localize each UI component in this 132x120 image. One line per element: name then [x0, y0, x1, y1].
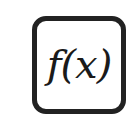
function-label: f(x): [47, 41, 112, 87]
function-icon: f(x): [32, 16, 126, 114]
